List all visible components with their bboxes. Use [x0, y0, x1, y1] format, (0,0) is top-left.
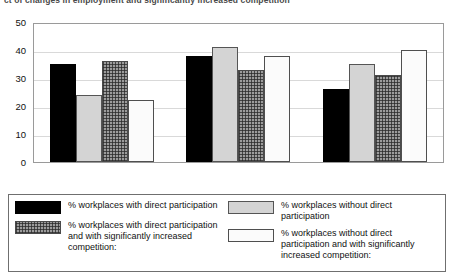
- y-axis: 01020304050: [0, 18, 30, 158]
- legend-swatch-icon: [15, 221, 61, 234]
- legend-item[interactable]: % workplaces without direct participatio…: [228, 200, 441, 222]
- legend-item[interactable]: % workplaces with direct participation a…: [15, 220, 228, 253]
- bar[interactable]: [349, 64, 375, 162]
- bar[interactable]: [375, 75, 401, 162]
- legend-item-label: % workplaces with direct participation a…: [68, 220, 228, 253]
- bars-layer: [34, 24, 443, 162]
- legend-item-label: % workplaces without direct participatio…: [281, 200, 441, 222]
- legend-column-right: % workplaces without direct participatio…: [228, 200, 441, 267]
- y-axis-tick-label: 40: [15, 46, 26, 56]
- legend-item-label: % workplaces without direct participatio…: [281, 228, 441, 261]
- bar[interactable]: [186, 56, 212, 162]
- y-axis-tick-label: 10: [15, 130, 26, 140]
- bar[interactable]: [212, 47, 238, 162]
- bar[interactable]: [323, 89, 349, 162]
- chart-legend: % workplaces with direct participation% …: [8, 194, 446, 272]
- legend-swatch-icon: [228, 201, 274, 214]
- legend-swatch-icon: [228, 229, 274, 242]
- legend-item[interactable]: % workplaces without direct participatio…: [228, 228, 441, 261]
- y-axis-tick-label: 0: [21, 158, 26, 168]
- bar[interactable]: [76, 95, 102, 162]
- legend-swatch-icon: [15, 201, 61, 214]
- bar[interactable]: [238, 70, 264, 162]
- y-axis-tick-label: 50: [15, 18, 26, 28]
- bar-group: [170, 24, 306, 162]
- legend-item-label: % workplaces with direct participation: [68, 200, 218, 211]
- bar-group: [34, 24, 170, 162]
- bar[interactable]: [50, 64, 76, 162]
- y-axis-tick-label: 20: [15, 102, 26, 112]
- y-axis-tick-label: 30: [15, 74, 26, 84]
- legend-item[interactable]: % workplaces with direct participation: [15, 200, 228, 214]
- chart-plot-wrapper: 01020304050: [0, 18, 454, 170]
- bar[interactable]: [401, 50, 427, 162]
- plot-area: [33, 23, 444, 163]
- chart-title: ct of changes in employment and signific…: [4, 0, 290, 5]
- legend-column-left: % workplaces with direct participation% …: [15, 200, 228, 267]
- bar[interactable]: [264, 56, 290, 162]
- bar[interactable]: [128, 100, 154, 162]
- bar-group: [307, 24, 443, 162]
- bar[interactable]: [102, 61, 128, 162]
